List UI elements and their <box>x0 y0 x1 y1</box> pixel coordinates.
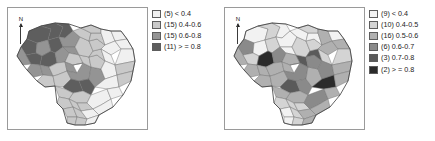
legend-swatch <box>369 32 378 40</box>
legend-swatch <box>369 66 378 74</box>
legend-right: (9) < 0.4 (10) 0.4-0.5 (16) 0.5-0.6 (6) … <box>369 8 418 75</box>
legend-label: (16) 0.5-0.6 <box>381 32 418 40</box>
legend-label: (3) 0.7-0.8 <box>381 54 414 62</box>
map-panel-right: N <box>224 7 365 130</box>
legend-label: (2) > = 0.8 <box>381 66 414 74</box>
legend-label: (15) 0.4-0.6 <box>164 21 201 29</box>
legend-item: (16) 0.5-0.6 <box>369 30 418 41</box>
legend-item: (15) 0.6-0.8 <box>152 30 201 41</box>
legend-label: (9) < 0.4 <box>381 10 408 18</box>
county-polygons-right <box>234 23 352 125</box>
map-svg-left <box>7 7 148 130</box>
legend-item: (15) 0.4-0.6 <box>152 19 201 30</box>
choropleth-map-right <box>224 7 365 130</box>
legend-item: (9) < 0.4 <box>369 8 418 19</box>
legend-swatch <box>369 54 378 62</box>
legend-item: (3) 0.7-0.8 <box>369 53 418 64</box>
legend-item: (6) 0.6-0.7 <box>369 42 418 53</box>
legend-item: (11) > = 0.8 <box>152 42 201 53</box>
legend-label: (5) < 0.4 <box>164 10 191 18</box>
legend-label: (11) > = 0.8 <box>164 43 201 51</box>
legend-swatch <box>369 10 378 18</box>
legend-swatch <box>152 10 161 18</box>
legend-swatch <box>369 43 378 51</box>
legend-left: (5) < 0.4 (15) 0.4-0.6 (15) 0.6-0.8 (11)… <box>152 8 201 53</box>
choropleth-map-left <box>7 7 148 130</box>
figure-canvas: N <box>0 0 435 141</box>
legend-swatch <box>369 21 378 29</box>
map-panel-left: N <box>7 7 148 130</box>
legend-label: (10) 0.4-0.5 <box>381 21 418 29</box>
county-polygons-left <box>17 23 135 125</box>
legend-item: (5) < 0.4 <box>152 8 201 19</box>
legend-label: (6) 0.6-0.7 <box>381 43 414 51</box>
legend-item: (2) > = 0.8 <box>369 64 418 75</box>
legend-label: (15) 0.6-0.8 <box>164 32 201 40</box>
legend-swatch <box>152 32 161 40</box>
map-svg-right <box>224 7 365 130</box>
legend-item: (10) 0.4-0.5 <box>369 19 418 30</box>
legend-swatch <box>152 21 161 29</box>
legend-swatch <box>152 43 161 51</box>
